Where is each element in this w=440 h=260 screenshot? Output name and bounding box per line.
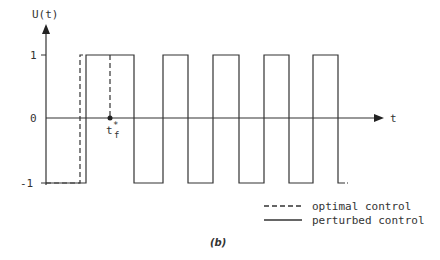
legend-optimal-label: optimal control xyxy=(312,200,411,213)
y-axis-label: U(t) xyxy=(32,8,59,21)
tf-label: t xyxy=(106,124,113,137)
series-optimal-control xyxy=(46,55,86,183)
tick-label-0: 0 xyxy=(30,112,37,125)
figure-caption: (b) xyxy=(210,237,226,248)
tick-label-1: 1 xyxy=(30,49,37,62)
tf-subscript: f xyxy=(114,130,119,140)
x-axis-label: t xyxy=(390,112,397,125)
y-axis-arrow-icon xyxy=(42,24,50,34)
chart: U(t) t 1 0 -1 t f * optimal control pert… xyxy=(0,0,440,260)
tick-label-m1: -1 xyxy=(20,177,33,190)
legend-perturbed-label: perturbed control xyxy=(312,214,425,227)
tf-superscript: * xyxy=(113,120,118,130)
series-perturbed-control xyxy=(46,55,344,183)
tf-marker xyxy=(108,116,113,121)
x-axis-arrow-icon xyxy=(374,114,384,122)
